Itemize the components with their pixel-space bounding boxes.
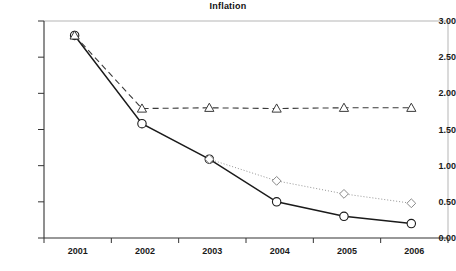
- series-line-flat-projection: [75, 35, 412, 108]
- data-point-circle: [138, 120, 146, 128]
- data-point-diamond: [407, 199, 416, 208]
- data-point-diamond: [340, 189, 349, 198]
- data-point-circle: [340, 212, 348, 220]
- series-line-actual: [75, 35, 412, 223]
- data-point-diamond: [272, 176, 281, 185]
- chart-plot-area: [0, 0, 456, 271]
- y-axis-ticks: [38, 21, 44, 238]
- series-markers: [70, 31, 416, 228]
- series-lines: [75, 35, 412, 223]
- data-point-circle: [407, 219, 415, 227]
- data-point-circle: [272, 198, 280, 206]
- x-axis-ticks: [44, 238, 448, 243]
- chart-container: Inflation 0.000.501.001.502.002.503.00 2…: [0, 0, 456, 271]
- series-line-alt-projection: [209, 159, 411, 203]
